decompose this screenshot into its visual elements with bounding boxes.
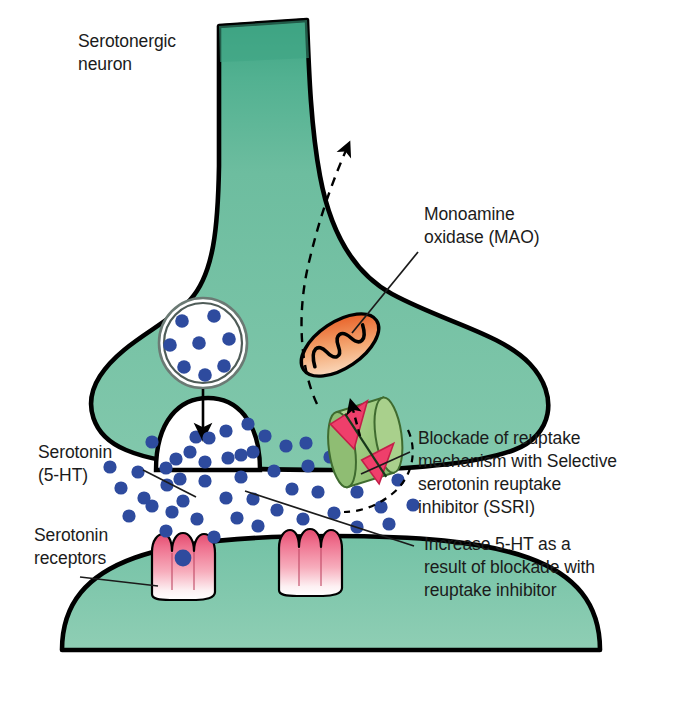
serotonin-dot — [217, 359, 231, 373]
serotonin-dot — [145, 435, 158, 448]
serotonin-dot — [169, 452, 182, 465]
serotonin-dot — [198, 455, 211, 468]
serotonin-dot — [177, 360, 191, 374]
serotonin-dot — [207, 530, 220, 543]
serotonin-dot — [192, 336, 206, 350]
serotonin-dot — [285, 482, 298, 495]
label-serotonergic-neuron: Serotonergic neuron — [78, 30, 176, 76]
serotonin-dot — [198, 368, 212, 382]
label-serotonin: Serotonin (5-HT) — [38, 441, 112, 487]
serotonin-dot — [114, 481, 127, 494]
serotonin-dot — [165, 505, 178, 518]
serotonin-dot — [230, 511, 243, 524]
serotonin-dot — [190, 512, 203, 525]
serotonin-dot — [246, 445, 259, 458]
serotonin-dot — [122, 509, 135, 522]
synaptic-vesicle — [159, 298, 247, 388]
serotonin-dot — [159, 461, 172, 474]
label-increase-5ht: Increase 5-HT as a result of blockade wi… — [424, 533, 595, 602]
serotonin-dot — [202, 431, 215, 444]
serotonin-dot — [183, 445, 196, 458]
serotonin-dot — [234, 448, 247, 461]
serotonin-dot — [301, 459, 314, 472]
serotonin-dot — [311, 485, 324, 498]
serotonin-dot — [176, 494, 189, 507]
serotonin-dot — [350, 485, 363, 498]
serotonin-dot — [163, 338, 177, 352]
serotonin-dot — [219, 424, 232, 437]
serotonin-dot — [296, 512, 309, 525]
serotonin-dot — [267, 464, 280, 477]
serotonin-dot — [299, 436, 312, 449]
receptor-body — [279, 529, 342, 596]
serotonin-dot — [382, 517, 395, 530]
serotonin-dot — [234, 470, 247, 483]
serotonin-synapse-diagram: Serotonergic neuron Monoamine oxidase (M… — [0, 0, 678, 701]
serotonin-receptor-right — [279, 529, 342, 596]
serotonin-dot — [159, 524, 172, 537]
serotonin-receptor-left — [152, 533, 215, 600]
serotonin-dot — [175, 314, 189, 328]
serotonin-dot — [131, 465, 144, 478]
label-ssri-blockade: Blockade of reuptake mechanism with Sele… — [418, 427, 617, 519]
serotonin-dot — [198, 474, 211, 487]
serotonin-dot — [207, 309, 221, 323]
receptor-body — [152, 533, 215, 600]
serotonin-leader-line — [143, 470, 196, 497]
serotonin-dot — [279, 439, 292, 452]
serotonin-dot — [137, 491, 150, 504]
label-serotonin-receptors: Serotonin receptors — [34, 524, 108, 570]
bound-serotonin-dot — [175, 550, 192, 567]
axon-top-shading — [219, 20, 309, 62]
serotonin-dot — [251, 519, 264, 532]
serotonin-dot — [258, 429, 271, 442]
serotonin-dot — [270, 503, 283, 516]
serotonin-dot — [241, 417, 254, 430]
serotonin-dot — [189, 430, 202, 443]
serotonin-dot — [173, 472, 186, 485]
serotonin-dot — [219, 491, 232, 504]
label-monoamine-oxidase: Monoamine oxidase (MAO) — [424, 203, 539, 249]
serotonin-dot — [221, 451, 234, 464]
serotonin-dot — [222, 332, 236, 346]
